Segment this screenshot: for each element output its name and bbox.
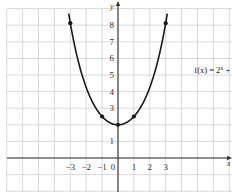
annotation-middle: + 2 — [223, 65, 232, 75]
annotation-prefix: f(x) = 2 — [194, 65, 220, 75]
y-tick-label: 1 — [110, 136, 115, 146]
data-point — [116, 123, 120, 127]
y-axis-arrow-icon — [116, 1, 120, 6]
y-tick-label: 8 — [110, 20, 115, 30]
x-tick-label: 1 — [132, 162, 137, 172]
x-tick-labels: −3−2−10123 — [66, 162, 169, 172]
y-tick-labels: 1345678 — [110, 20, 115, 146]
y-tick-label: 5 — [110, 70, 115, 80]
x-axis-label: x — [226, 159, 231, 168]
function-annotation: f(x) = 2x + 2−x — [194, 65, 232, 76]
x-tick-label: −2 — [81, 162, 91, 172]
y-axis-label: y — [109, 2, 114, 11]
grid — [7, 9, 232, 192]
data-point — [132, 114, 136, 118]
data-point — [68, 21, 72, 25]
y-tick-label: 4 — [110, 87, 115, 97]
x-tick-label: 2 — [148, 162, 153, 172]
data-point — [100, 114, 104, 118]
y-tick-label: 3 — [110, 103, 115, 113]
x-tick-label: −3 — [66, 162, 76, 172]
x-tick-label: 0 — [111, 162, 116, 172]
function-graph: x y −3−2−10123 1345678 f(x) = 2x + 2−x — [0, 0, 232, 194]
x-tick-label: 3 — [163, 162, 168, 172]
y-tick-label: 7 — [110, 37, 115, 47]
data-point — [164, 21, 168, 25]
y-tick-label: 6 — [110, 53, 115, 63]
axes: x y — [7, 1, 232, 192]
x-tick-label: −1 — [97, 162, 107, 172]
